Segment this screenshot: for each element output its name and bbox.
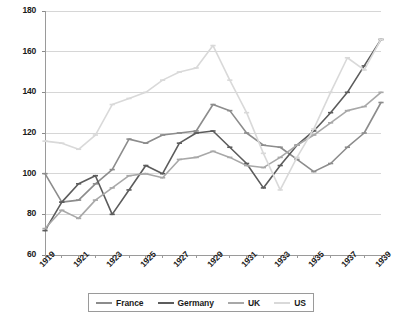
line-chart: 6080100120140160180 19191921192319251927… <box>0 0 396 318</box>
series-line-france <box>45 103 381 203</box>
chart-plot-area <box>0 0 396 318</box>
y-tick-label: 100 <box>10 168 36 178</box>
legend-label: France <box>116 298 143 308</box>
legend-label: Germany <box>178 298 214 308</box>
y-tick-label: 120 <box>10 127 36 137</box>
legend-label: US <box>294 298 306 308</box>
y-tick-label: 80 <box>10 208 36 218</box>
legend-label: UK <box>248 298 260 308</box>
legend-swatch-icon <box>228 302 244 304</box>
legend-item-uk[interactable]: UK <box>228 298 260 308</box>
legend-swatch-icon <box>96 302 112 304</box>
y-tick-label: 160 <box>10 46 36 56</box>
series-line-us <box>45 39 381 189</box>
y-tick-label: 60 <box>10 249 36 259</box>
legend-swatch-icon <box>158 302 174 304</box>
legend-swatch-icon <box>274 302 290 304</box>
y-tick-label: 180 <box>10 5 36 15</box>
legend-item-france[interactable]: France <box>96 298 143 308</box>
gridlines <box>45 11 381 255</box>
chart-legend: FranceGermanyUKUS <box>88 293 314 312</box>
y-tick-label: 140 <box>10 86 36 96</box>
data-series <box>42 39 383 230</box>
legend-item-us[interactable]: US <box>274 298 306 308</box>
legend-item-germany[interactable]: Germany <box>158 298 214 308</box>
